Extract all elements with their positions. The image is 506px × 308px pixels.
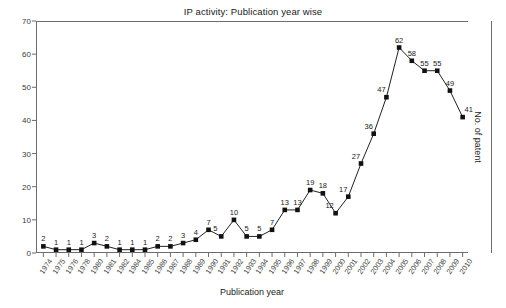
data-point-marker xyxy=(219,234,224,239)
data-point-marker xyxy=(321,191,326,196)
data-point-marker xyxy=(460,115,465,120)
data-point-marker xyxy=(397,45,402,50)
data-point-marker xyxy=(448,88,453,93)
x-axis-tick-label: 2010 xyxy=(457,257,474,276)
data-point-marker xyxy=(282,208,287,213)
data-point-marker xyxy=(333,211,338,216)
y-axis-tick-label: 0 xyxy=(27,249,31,258)
data-point-marker xyxy=(155,244,160,249)
data-point-marker xyxy=(270,228,275,233)
data-point-marker xyxy=(435,68,440,73)
chart-title: IP activity: Publication year wise xyxy=(0,6,506,17)
data-point-marker xyxy=(130,247,135,252)
y-axis-title-text: No. of patent xyxy=(473,111,483,163)
chart-figure: IP activity: Publication year wise 01020… xyxy=(0,0,506,308)
data-point-marker xyxy=(79,247,84,252)
data-point-marker xyxy=(194,237,199,242)
data-point-marker xyxy=(181,241,186,246)
data-point-marker xyxy=(117,247,122,252)
data-point-marker xyxy=(232,218,237,223)
x-axis-tick-label: 1989 xyxy=(190,257,207,276)
y-axis-tick-label: 70 xyxy=(22,17,31,26)
data-point-marker xyxy=(422,68,427,73)
data-point-marker xyxy=(308,188,313,193)
data-point-marker xyxy=(41,244,46,249)
data-point-marker xyxy=(105,244,110,249)
data-point-marker xyxy=(346,194,351,199)
data-point-marker xyxy=(66,247,71,252)
y-axis-tick-label: 30 xyxy=(22,149,31,158)
x-axis-title: Publication year xyxy=(36,287,468,297)
right-axis-spine xyxy=(491,21,492,253)
data-point-marker xyxy=(384,95,389,100)
data-line xyxy=(43,48,462,250)
data-point-marker xyxy=(92,241,97,246)
x-axis-tick-label: 1981 xyxy=(101,257,118,276)
y-axis-tick-label: 10 xyxy=(22,215,31,224)
data-point-marker xyxy=(244,234,249,239)
y-axis-title: No. of patent xyxy=(470,21,486,253)
plot-area: 010203040506070 197419751976197819801981… xyxy=(36,21,468,253)
data-point-marker xyxy=(410,58,415,63)
chart-plot-svg xyxy=(36,21,468,253)
x-axis-tick-label: 1999 xyxy=(317,257,334,276)
data-point-marker xyxy=(371,131,376,136)
data-point-marker xyxy=(257,234,262,239)
y-axis-tick-label: 50 xyxy=(22,83,31,92)
data-point-marker xyxy=(295,208,300,213)
y-axis-tick-label: 40 xyxy=(22,116,31,125)
data-point-marker xyxy=(359,161,364,166)
x-axis-tick-label: 2006 xyxy=(406,257,423,276)
data-point-marker xyxy=(54,247,59,252)
data-point-marker xyxy=(168,244,173,249)
y-axis-tick-label: 60 xyxy=(22,50,31,59)
data-point-marker xyxy=(206,228,211,233)
y-axis-tick-label: 20 xyxy=(22,182,31,191)
data-point-marker xyxy=(143,247,148,252)
